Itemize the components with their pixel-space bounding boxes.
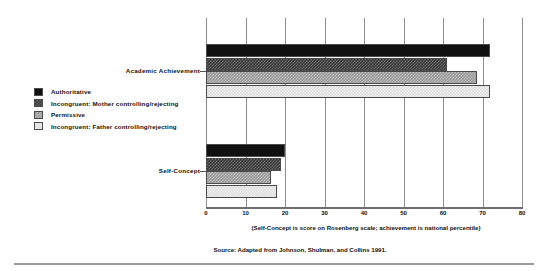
- bar-chart-figure: Academic AchievementSelf-Concept 0102030…: [0, 0, 546, 271]
- legend-swatch-icon: [34, 99, 43, 107]
- tick-label-20: 20: [282, 210, 289, 216]
- tick-label-0: 0: [204, 210, 207, 216]
- bar: [206, 144, 285, 157]
- tick-label-40: 40: [361, 210, 368, 216]
- bar: [206, 71, 477, 84]
- gridline-80: [522, 18, 523, 208]
- bottom-divider: [14, 263, 534, 265]
- bar: [206, 44, 490, 57]
- tick-label-30: 30: [321, 210, 328, 216]
- bar: [206, 158, 281, 171]
- bar: [206, 185, 277, 198]
- tick-label-70: 70: [479, 210, 486, 216]
- axis-note: (Self-Concept is score on Rosenberg scal…: [206, 224, 526, 231]
- legend-item: Incongruent: Mother controlling/rejectin…: [34, 98, 179, 110]
- legend-label: Incongruent: Mother controlling/rejectin…: [51, 100, 179, 107]
- legend-item: Incongruent: Father controlling/rejectin…: [34, 121, 179, 133]
- legend-item: Permissive: [34, 109, 179, 121]
- legend-label: Incongruent: Father controlling/rejectin…: [51, 123, 177, 130]
- legend-swatch-icon: [34, 122, 43, 130]
- category-label: Self-Concept: [159, 167, 200, 174]
- x-axis-baseline: [206, 207, 523, 209]
- bar: [206, 58, 447, 71]
- legend-label: Permissive: [51, 111, 85, 118]
- legend-swatch-icon: [34, 111, 43, 119]
- legend-item: Authoritative: [34, 86, 179, 98]
- source-note: Source: Adapted from Johnson, Shulman, a…: [150, 246, 450, 253]
- category-label: Academic Achievement: [126, 67, 200, 74]
- chart-legend: AuthoritativeIncongruent: Mother control…: [34, 86, 179, 132]
- legend-swatch-icon: [34, 88, 43, 96]
- tick-label-50: 50: [400, 210, 407, 216]
- category-leader-line: [200, 71, 206, 72]
- bar: [206, 171, 271, 184]
- bar: [206, 85, 490, 98]
- category-leader-line: [200, 171, 206, 172]
- tick-label-60: 60: [440, 210, 447, 216]
- legend-label: Authoritative: [51, 88, 91, 95]
- tick-label-80: 80: [519, 210, 526, 216]
- tick-label-10: 10: [242, 210, 249, 216]
